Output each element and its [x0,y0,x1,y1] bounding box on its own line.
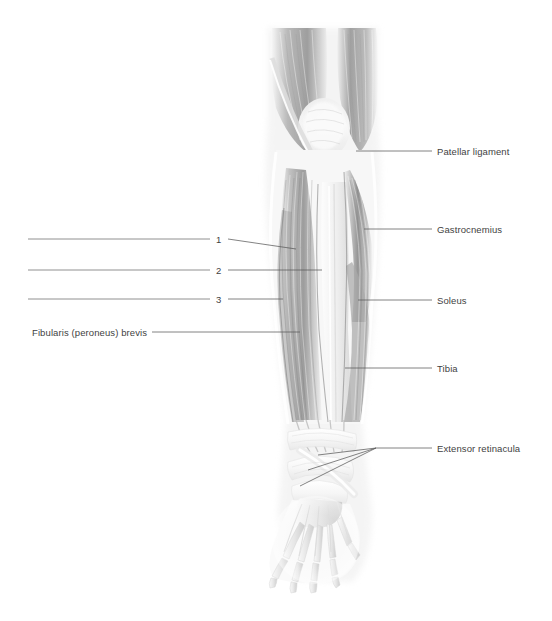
anatomy-figure-canvas: Patellar ligamentGastrocnemiusSoleusTibi… [0,0,552,621]
label-extensor-retinacula: Extensor retinacula [437,443,520,454]
label-fibularis-peroneus-brevis: Fibularis (peroneus) brevis [32,327,147,338]
answer-number-2: 2 [216,265,221,276]
label-tibia: Tibia [437,363,458,374]
answer-number-1: 1 [216,234,221,245]
label-gastrocnemius: Gastrocnemius [437,224,502,235]
label-soleus: Soleus [437,295,467,306]
label-patellar-ligament: Patellar ligament [437,146,509,157]
answer-number-3: 3 [216,294,221,305]
leg-anatomy-illustration [0,0,552,621]
